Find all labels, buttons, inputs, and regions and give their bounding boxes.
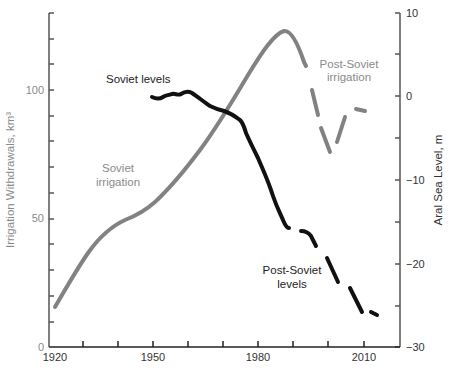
label-post-soviet-irrigation-1: Post-Soviet: [320, 58, 380, 70]
right-tick-minus30: −30: [406, 341, 425, 353]
x-tick-1980: 1980: [246, 351, 270, 363]
label-post-soviet-irrigation-2: irrigation: [327, 71, 371, 83]
chart: 0 50 100 Irrigation Withdrawals, km³ 10 …: [0, 0, 451, 373]
label-post-soviet-levels-2: levels: [277, 278, 307, 290]
label-soviet-irrigation-2: irrigation: [96, 176, 140, 188]
label-soviet-irrigation-1: Soviet: [102, 162, 135, 174]
post-soviet-irrigation-line: [312, 90, 365, 152]
x-tick-1950: 1950: [141, 351, 165, 363]
right-tick-minus20: −20: [406, 258, 425, 270]
right-axis-label: Aral Sea Level, m: [432, 135, 444, 226]
soviet-levels-line: [152, 92, 289, 228]
x-axis: [49, 341, 400, 347]
right-axis: [395, 13, 400, 347]
left-tick-100: 100: [26, 84, 44, 96]
left-tick-50: 50: [32, 212, 44, 224]
right-tick-10: 10: [406, 7, 418, 19]
left-axis: [49, 13, 54, 347]
left-axis-label: Irrigation Withdrawals, km³: [4, 112, 16, 248]
x-tick-2010: 2010: [352, 351, 376, 363]
label-soviet-levels: Soviet levels: [106, 73, 171, 85]
right-tick-minus10: −10: [406, 174, 425, 186]
right-tick-0: 0: [406, 90, 412, 102]
x-tick-1920: 1920: [43, 351, 67, 363]
label-post-soviet-levels-1: Post-Soviet: [263, 264, 323, 276]
